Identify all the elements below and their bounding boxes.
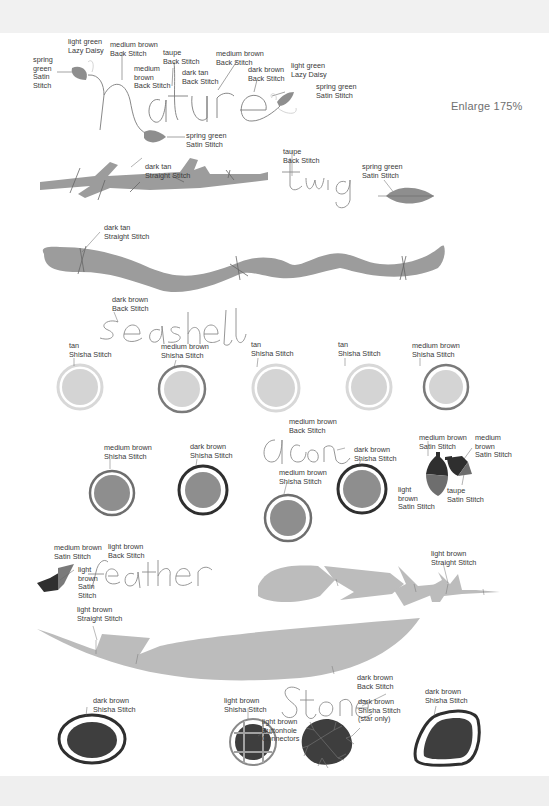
label-nature-dark-tan: dark tan Back Stitch [182,69,219,86]
label-seashell-4: tan Shisha Stitch [338,341,381,358]
label-nature-lazy-daisy-right: light green Lazy Daisy [291,62,327,79]
embroidery-pattern-art [0,0,549,806]
label-nature-taupe: taupe Back Stitch [163,49,200,66]
enlarge-note: Enlarge 175% [451,100,523,112]
label-stone-4: dark brown Shisha Stitch [425,688,468,705]
label-stone-2: light brown Shisha Stitch [224,697,267,714]
label-acorn-cap-left: medium brown Satin Stitch [419,434,467,451]
label-nature-spring-green-right: spring green Satin Stitch [316,83,357,100]
label-feather-bird-light: light brown Satin Stitch [78,566,98,600]
shell-circles [58,365,468,412]
label-stone-1: dark brown Shisha Stitch [93,697,136,714]
label-nature-dark-brown: dark brown Back Stitch [248,66,285,83]
label-twig-taupe: taupe Back Stitch [283,148,320,165]
label-twig-spring-green: spring green Satin Stitch [362,163,403,180]
label-acorn-cap-right: medium brown Satin Stitch [475,434,512,460]
label-feather-straight-bottom: light brown Straight Stitch [77,606,122,623]
label-nature-spring-green-bottom: spring green Satin Stitch [186,132,227,149]
seashell-motif [58,308,468,412]
label-acorn-nut-right: taupe Satin Stitch [447,487,484,504]
label-branch-dark-tan: dark tan Straight Stitch [104,224,149,241]
label-acorn-nut-left: light brown Satin Stitch [398,486,435,512]
twig-leaf [386,188,434,204]
label-acorn-circle-2: dark brown Shisha Stitch [190,443,233,460]
label-nature-lazy-daisy-left: light green Lazy Daisy [68,38,104,55]
label-twig-dark-tan: dark tan Straight Stitch [145,163,190,180]
label-stone-star: dark brown Shisha Stitch (star only) [358,698,401,724]
label-feather-back-stitch: light brown Back Stitch [108,543,145,560]
label-feather-bird-dark: medium brown Satin Stitch [54,544,102,561]
label-nature-spring-green-left: spring green Satin Stitch [33,56,53,90]
label-seashell-1: tan Shisha Stitch [69,342,112,359]
label-acorn-circle-1: medium brown Shisha Stitch [104,444,152,461]
label-feather-straight-top: light brown Straight Stitch [431,550,476,567]
label-seashell-dark-brown: dark brown Back Stitch [112,296,149,313]
label-nature-medium-brown-1: medium brown Back Stitch [110,41,158,58]
label-stone-connectors: light brown Buttonhole Connectors [262,718,299,744]
label-seashell-2: medium brown Shisha Stitch [161,343,209,360]
label-acorn-circle-3: medium brown Shisha Stitch [279,469,327,486]
label-seashell-3: tan Shisha Stitch [251,341,294,358]
label-nature-medium-brown-2: medium brown Back Stitch [134,65,171,91]
label-seashell-5: medium brown Shisha Stitch [412,342,460,359]
label-acorn-circle-4: dark brown Shisha Stitch [354,446,397,463]
label-acorn-back-stitch: medium brown Back Stitch [289,418,337,435]
label-stone-back-stitch: dark brown Back Stitch [357,674,394,691]
